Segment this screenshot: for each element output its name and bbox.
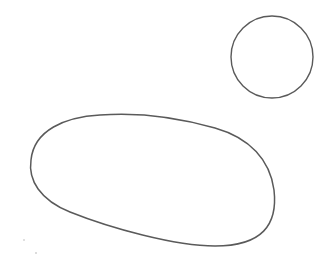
sketch-canvas — [0, 0, 332, 273]
paper-speck — [35, 252, 37, 254]
paper-background — [0, 0, 332, 273]
paper-speck — [23, 239, 25, 241]
